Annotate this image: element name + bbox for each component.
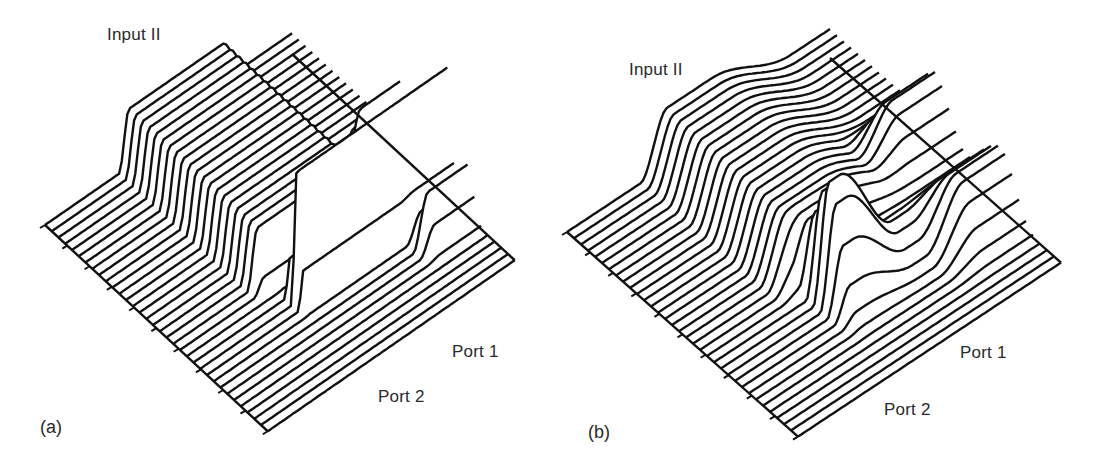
- axis-tick-mark: [196, 369, 201, 372]
- axis-tick-mark: [654, 314, 659, 317]
- panel-b-label: (b): [588, 422, 610, 443]
- axis-tick-mark: [263, 431, 268, 434]
- axis-tick-mark: [701, 355, 706, 358]
- axis-tick-mark: [218, 390, 223, 393]
- panel-b-input-ii-label: Input II: [629, 60, 683, 80]
- panel-a-input-ii-label: Input II: [107, 25, 161, 45]
- panel-b-port-1-label: Port 1: [960, 343, 1007, 363]
- axis-tick-mark: [62, 246, 67, 249]
- axis-tick-mark: [678, 334, 683, 337]
- axis-tick-mark: [174, 349, 179, 352]
- panel-b-waterfall-plot: [562, 29, 1061, 440]
- axis-tick-mark: [631, 293, 636, 296]
- axis-tick-mark: [240, 411, 245, 414]
- axis-tick-mark: [608, 273, 613, 276]
- axis-tick-mark: [151, 328, 156, 331]
- axis-tick-mark: [40, 225, 45, 228]
- axis-tick-mark: [724, 375, 729, 378]
- axis-tick-mark: [793, 437, 798, 440]
- panel-a-label: (a): [40, 417, 62, 438]
- axis-tick-mark: [770, 416, 775, 419]
- panel-b-port-2-label: Port 2: [884, 400, 931, 420]
- axis-tick-mark: [747, 396, 752, 399]
- axis-tick-mark: [129, 308, 134, 311]
- panel-a-port-2-label: Port 2: [378, 387, 425, 407]
- axis-tick-mark: [107, 287, 112, 290]
- axis-tick-mark: [562, 232, 567, 235]
- axis-tick-mark: [85, 266, 90, 269]
- axis-tick-mark: [585, 252, 590, 255]
- waterfall-figure: [0, 0, 1100, 472]
- panel-a-waterfall-plot: [40, 33, 515, 434]
- panel-a-port-1-label: Port 1: [452, 342, 499, 362]
